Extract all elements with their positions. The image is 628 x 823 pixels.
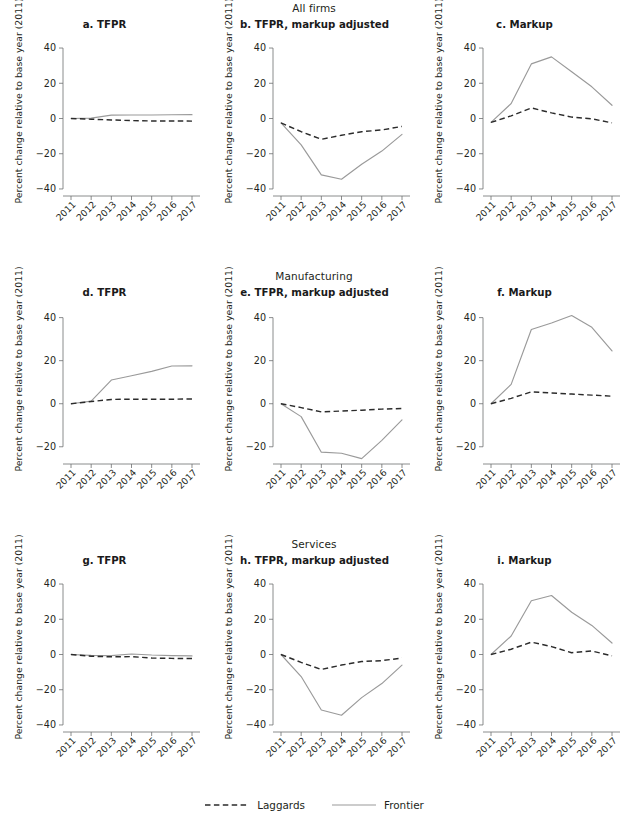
x-tick-label: 2014: [324, 467, 348, 491]
series-line-frontier: [281, 404, 402, 459]
y-tick-label: −20: [456, 441, 476, 452]
x-tick-label: 2016: [364, 467, 388, 491]
x-tick-label: 2017: [385, 199, 409, 223]
panel-i: i. Markup Percent change relative to bas…: [420, 536, 628, 804]
x-tick-label: 2011: [474, 735, 498, 759]
y-tick-label: 20: [254, 614, 266, 625]
plot-area: 40200−202011201220132014201520162017: [420, 268, 628, 536]
y-tick-label: 20: [254, 78, 266, 89]
x-tick-label: 2014: [114, 467, 138, 491]
panel-f: f. Markup Percent change relative to bas…: [420, 268, 628, 536]
series-line-laggards: [281, 123, 402, 139]
y-tick-label: −40: [36, 719, 56, 730]
y-tick-label: 40: [254, 312, 266, 323]
x-tick-label: 2014: [114, 735, 138, 759]
series-line-laggards: [281, 655, 402, 670]
y-tick-label: −20: [246, 684, 266, 695]
panel-b: b. TFPR, markup adjusted Percent change …: [210, 0, 419, 268]
y-tick-label: 20: [254, 355, 266, 366]
x-tick-label: 2014: [324, 735, 348, 759]
chart-row-all-firms: All firms a. TFPR Percent change relativ…: [0, 0, 628, 268]
x-tick-label: 2015: [344, 467, 368, 491]
series-line-laggards: [71, 119, 192, 122]
legend-label-frontier: Frontier: [384, 799, 424, 811]
y-tick-label: 0: [470, 398, 476, 409]
x-tick-label: 2013: [304, 467, 328, 491]
y-tick-label: −20: [36, 684, 56, 695]
y-tick-label: 40: [44, 312, 56, 323]
x-tick-label: 2014: [534, 467, 558, 491]
x-tick-label: 2014: [114, 199, 138, 223]
figure-root: All firms a. TFPR Percent change relativ…: [0, 0, 628, 823]
x-tick-label: 2012: [284, 735, 308, 759]
series-line-frontier: [71, 115, 192, 119]
x-tick-label: 2011: [264, 199, 288, 223]
y-tick-label: −40: [246, 183, 266, 194]
y-tick-label: −40: [456, 183, 476, 194]
panel-a: a. TFPR Percent change relative to base …: [0, 0, 209, 268]
y-tick-label: −40: [246, 719, 266, 730]
x-tick-label: 2013: [94, 467, 118, 491]
x-tick-label: 2015: [344, 199, 368, 223]
x-tick-label: 2013: [94, 735, 118, 759]
chart-legend: Laggards Frontier: [0, 792, 628, 818]
x-tick-label: 2012: [74, 735, 98, 759]
x-tick-label: 2015: [344, 735, 368, 759]
x-tick-label: 2013: [304, 735, 328, 759]
y-tick-label: 40: [464, 42, 476, 53]
y-tick-label: −20: [36, 441, 56, 452]
plot-area: 40200−20−402011201220132014201520162017: [420, 0, 628, 268]
x-tick-label: 2012: [494, 467, 518, 491]
x-tick-label: 2016: [574, 467, 598, 491]
x-tick-label: 2016: [574, 199, 598, 223]
series-line-laggards: [71, 399, 192, 404]
series-line-laggards: [281, 404, 402, 412]
x-tick-label: 2017: [595, 467, 619, 491]
x-tick-label: 2014: [534, 735, 558, 759]
legend-swatch-solid-icon: [331, 800, 377, 810]
x-tick-label: 2016: [154, 467, 178, 491]
y-tick-label: 0: [50, 398, 56, 409]
legend-entry-laggards: Laggards: [204, 799, 305, 811]
y-tick-label: 0: [470, 113, 476, 124]
plot-area: 40200−20−402011201220132014201520162017: [210, 0, 419, 268]
x-tick-label: 2017: [385, 735, 409, 759]
x-tick-label: 2015: [134, 735, 158, 759]
y-tick-label: 40: [44, 578, 56, 589]
series-line-frontier: [491, 595, 612, 654]
panel-c: c. Markup Percent change relative to bas…: [420, 0, 628, 268]
x-tick-label: 2012: [74, 467, 98, 491]
panel-d: d. TFPR Percent change relative to base …: [0, 268, 209, 536]
x-tick-label: 2011: [474, 199, 498, 223]
x-tick-label: 2012: [284, 199, 308, 223]
x-tick-label: 2015: [554, 467, 578, 491]
series-line-frontier: [281, 655, 402, 716]
x-tick-label: 2013: [514, 467, 538, 491]
plot-area: 40200−20−402011201220132014201520162017: [0, 536, 209, 804]
y-tick-label: 0: [260, 398, 266, 409]
y-tick-label: 0: [50, 649, 56, 660]
x-tick-label: 2012: [494, 735, 518, 759]
y-tick-label: −20: [456, 684, 476, 695]
y-tick-label: 20: [464, 355, 476, 366]
y-tick-label: −40: [456, 719, 476, 730]
x-tick-label: 2013: [514, 735, 538, 759]
series-line-laggards: [491, 642, 612, 656]
series-line-frontier: [71, 366, 192, 404]
x-tick-label: 2011: [474, 467, 498, 491]
series-line-frontier: [491, 315, 612, 403]
x-tick-label: 2011: [54, 467, 78, 491]
x-tick-label: 2013: [514, 199, 538, 223]
x-tick-label: 2012: [494, 199, 518, 223]
y-tick-label: −40: [36, 183, 56, 194]
legend-label-laggards: Laggards: [257, 799, 305, 811]
x-tick-label: 2014: [324, 199, 348, 223]
x-tick-label: 2015: [134, 199, 158, 223]
y-tick-label: 40: [464, 578, 476, 589]
x-tick-label: 2011: [264, 467, 288, 491]
y-tick-label: 40: [254, 42, 266, 53]
x-tick-label: 2017: [175, 467, 199, 491]
x-tick-label: 2016: [574, 735, 598, 759]
y-tick-label: 40: [254, 578, 266, 589]
plot-area: 40200−20−402011201220132014201520162017: [0, 0, 209, 268]
